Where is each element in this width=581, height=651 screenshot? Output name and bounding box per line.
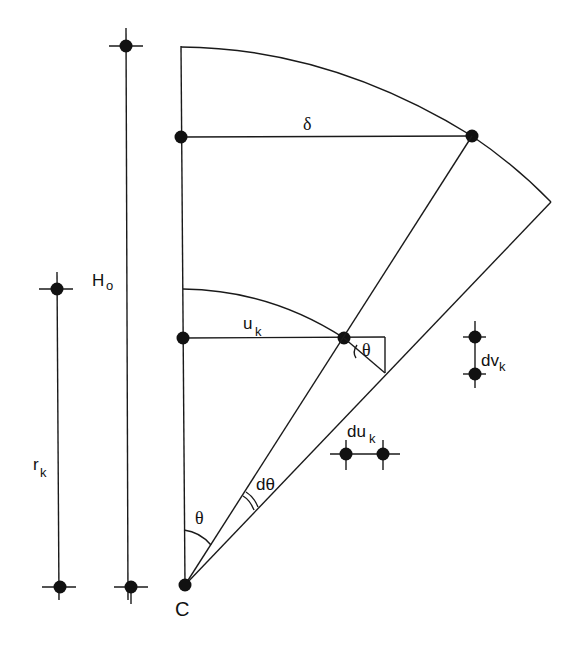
vertical-axis: [181, 46, 185, 585]
outer-arc: [181, 47, 472, 136]
label-H-sub: o: [106, 278, 113, 293]
label-dv: dv: [481, 351, 499, 370]
label-du-sub: k: [369, 431, 376, 446]
uk-line: [183, 337, 385, 338]
center-point: [179, 579, 192, 592]
label-u-sub: k: [255, 324, 262, 339]
label-delta: δ: [303, 114, 311, 134]
label-dv-sub: k: [499, 359, 506, 374]
radial-line-theta: [185, 136, 472, 585]
label-du: du: [347, 422, 366, 441]
radius-dimension: [39, 272, 76, 600]
label-r: r: [33, 455, 39, 474]
label-theta-small: θ: [362, 340, 371, 360]
label-dtheta: dθ: [256, 475, 275, 494]
label-u: u: [243, 314, 252, 333]
label-r-sub: k: [40, 465, 47, 480]
diagram-svg: H o r k δ u k θ θ dθ du k dv k C: [0, 0, 581, 651]
height-dimension: [109, 28, 148, 604]
deformation-diagram: H o r k δ u k θ θ dθ du k dv k C: [0, 0, 581, 651]
inner-arc: [183, 289, 344, 338]
outer-boundary: [472, 136, 551, 202]
label-center: C: [175, 598, 189, 620]
label-H: H: [92, 271, 104, 290]
du-indicator: [330, 440, 400, 470]
radial-line-dtheta: [185, 202, 551, 585]
delta-line: [181, 136, 472, 137]
label-theta-base: θ: [195, 508, 204, 528]
